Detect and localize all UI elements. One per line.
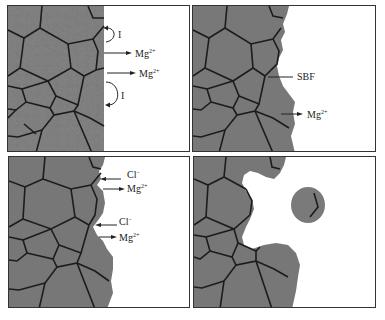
panel-grain-detachment bbox=[193, 156, 376, 308]
label-chloride-2: Cl− bbox=[119, 217, 132, 227]
arrow-right-icon bbox=[297, 112, 303, 116]
label-current-bottom: I bbox=[121, 91, 124, 101]
panel-initial-corrosion: I Mg2+ Mg2+ I bbox=[7, 5, 190, 152]
arrow-left-icon bbox=[100, 177, 106, 181]
label-chloride-1: Cl− bbox=[127, 170, 140, 180]
arrow-left-icon bbox=[95, 223, 101, 227]
label-mg-ion-2: Mg2+ bbox=[119, 233, 139, 243]
grain-microstructure bbox=[8, 6, 190, 152]
grain-microstructure bbox=[9, 157, 190, 308]
label-mg-ion-1: Mg2+ bbox=[135, 49, 155, 59]
label-sbf: SBF bbox=[297, 72, 315, 82]
label-current-top: I bbox=[118, 30, 121, 40]
panel-sbf-attack: SBF Mg2+ bbox=[192, 5, 376, 152]
arrow-right-icon bbox=[130, 71, 136, 75]
label-mg-ion-2: Mg2+ bbox=[139, 69, 159, 79]
current-loop-bottom bbox=[106, 82, 118, 105]
grain-microstructure bbox=[194, 157, 376, 308]
current-loop-top bbox=[104, 28, 114, 42]
arrow-right-icon bbox=[119, 187, 125, 191]
grain-microstructure bbox=[193, 6, 376, 152]
label-mg-ion-1: Mg2+ bbox=[127, 184, 147, 194]
label-mg-ion: Mg2+ bbox=[307, 110, 327, 120]
panel-chloride-attack: Cl− Mg2+ Cl− Mg2+ bbox=[8, 156, 190, 308]
arrow-right-icon bbox=[111, 235, 117, 239]
arrow-right-icon bbox=[126, 51, 132, 55]
detached-grain bbox=[291, 187, 325, 223]
